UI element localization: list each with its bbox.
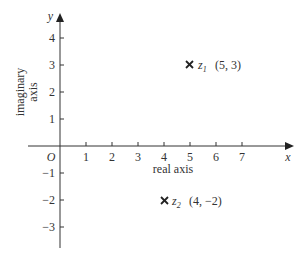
origin-label: O: [47, 150, 56, 164]
y-axis-label-line2: axis: [26, 82, 40, 102]
x-tick-2: 2: [109, 150, 115, 164]
cross-marker-icon: [161, 197, 168, 204]
x-tick-7: 7: [239, 150, 245, 164]
y-axis-label: imaginary axis: [13, 68, 40, 117]
y-tick-labels: 1 2 3 4 −1 −2 −3: [42, 31, 55, 234]
point-z2-name: z2: [171, 194, 181, 210]
y-tick-neg2: −2: [42, 193, 55, 207]
y-tick-neg3: −3: [42, 220, 55, 234]
point-z1-coords: (5, 3): [215, 58, 241, 72]
x-tick-6: 6: [213, 150, 219, 164]
x-ticks: [86, 142, 242, 146]
x-axis-label: real axis: [153, 162, 194, 176]
cross-marker-icon: [186, 61, 193, 68]
y-tick-2: 2: [49, 85, 55, 99]
y-axis-arrow-icon: [56, 13, 64, 22]
y-tick-neg1: −1: [42, 166, 55, 180]
x-axis: [28, 142, 294, 150]
y-axis: [56, 13, 64, 248]
x-axis-arrow-icon: [285, 142, 294, 150]
x-tick-3: 3: [135, 150, 141, 164]
y-axis-label-line1: imaginary: [13, 68, 27, 117]
argand-diagram: 1 2 3 4 5 6 7 1 2 3 4 −1 −2 −3 y x O rea…: [0, 0, 306, 262]
point-z1-name: z1: [197, 58, 207, 74]
y-ticks: [60, 38, 64, 227]
x-axis-symbol: x: [284, 150, 291, 164]
x-tick-1: 1: [83, 150, 89, 164]
point-z1: z1 (5, 3): [186, 58, 241, 74]
y-tick-1: 1: [49, 112, 55, 126]
point-z2: z2 (4, −2): [161, 194, 222, 210]
point-z2-coords: (4, −2): [189, 194, 222, 208]
y-axis-symbol: y: [47, 9, 54, 23]
y-tick-4: 4: [49, 31, 55, 45]
y-tick-3: 3: [49, 58, 55, 72]
